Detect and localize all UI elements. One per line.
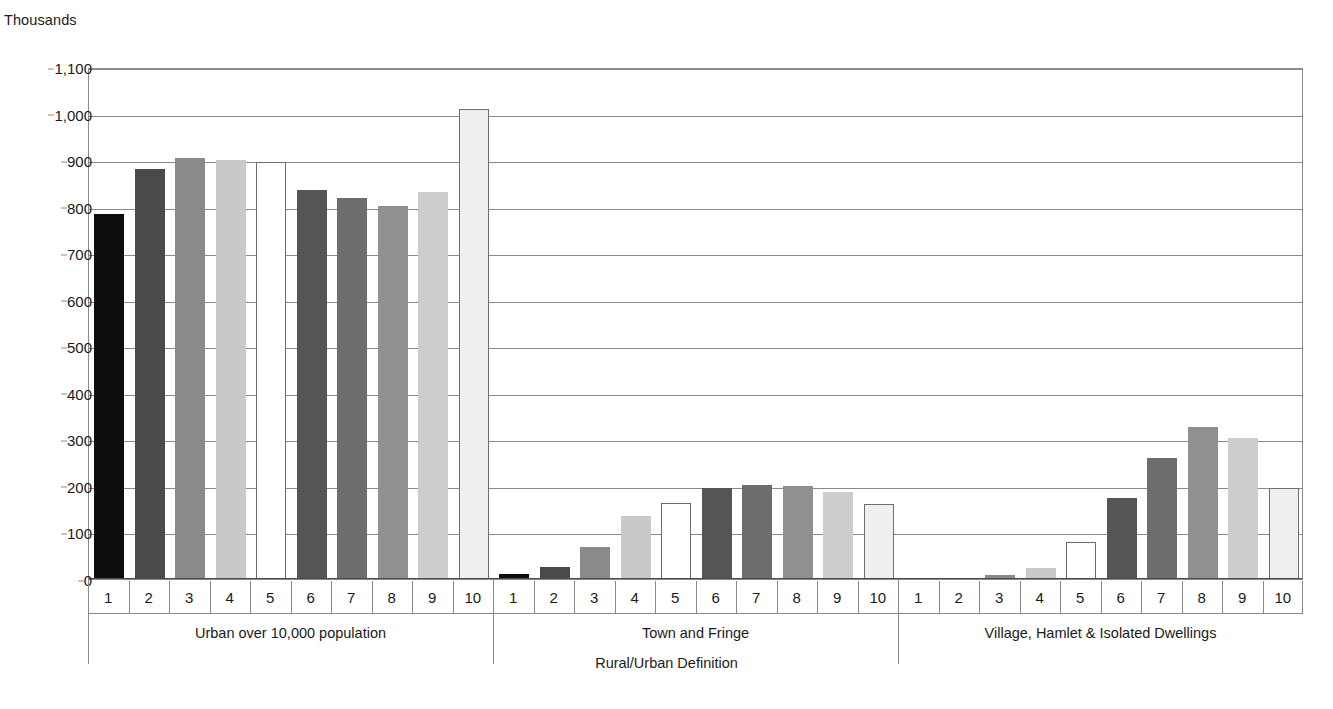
tick-divider	[574, 581, 575, 614]
tick-divider	[250, 581, 251, 614]
x-axis-tick-label: 1	[898, 581, 939, 614]
bar	[135, 169, 165, 579]
x-axis-baseline	[89, 578, 1302, 579]
x-axis-title: Rural/Urban Definition	[0, 655, 1333, 671]
y-axis-tick-mark	[61, 533, 67, 534]
bar	[297, 190, 327, 579]
bar	[1228, 438, 1258, 579]
y-axis-tick-mark	[61, 254, 67, 255]
bar	[418, 192, 448, 579]
group-separator	[88, 580, 89, 664]
bar-cell	[940, 69, 981, 579]
x-axis-tick-label: 10	[453, 581, 494, 614]
x-axis-tick-label: 9	[412, 581, 453, 614]
y-axis-tick-mark	[61, 440, 67, 441]
bar-cell	[737, 69, 778, 579]
tick-divider	[331, 581, 332, 614]
bar-cell	[1183, 69, 1224, 579]
bar-cell	[413, 69, 454, 579]
y-axis-tick-mark	[61, 301, 67, 302]
bar-cell	[616, 69, 657, 579]
y-axis-tick-label: 800	[67, 199, 92, 216]
bar	[459, 109, 489, 579]
x-axis-tick-label: 3	[169, 581, 210, 614]
x-axis-tick-labels: 123456789101234567891012345678910	[88, 581, 1303, 614]
tick-divider	[129, 581, 130, 614]
bar-cell	[859, 69, 900, 579]
bar-cell	[494, 69, 535, 579]
x-axis-tick-label: 3	[979, 581, 1020, 614]
tick-divider	[939, 581, 940, 614]
tick-divider	[1141, 581, 1142, 614]
y-axis-tick-label: 600	[67, 292, 92, 309]
x-axis-tick-label: 6	[696, 581, 737, 614]
y-axis-tick-mark	[78, 580, 84, 581]
tick-divider	[412, 581, 413, 614]
bar	[1066, 542, 1096, 579]
bar-cell	[251, 69, 292, 579]
x-axis-tick-label: 10	[1263, 581, 1304, 614]
x-axis-tick-label: 2	[129, 581, 170, 614]
group-label: Village, Hamlet & Isolated Dwellings	[898, 614, 1303, 652]
bar	[1107, 498, 1137, 579]
y-axis-tick-mark	[48, 115, 54, 116]
y-axis-tick-label: 300	[67, 432, 92, 449]
x-axis-tick-label: 5	[1060, 581, 1101, 614]
tick-divider	[696, 581, 697, 614]
bar	[337, 198, 367, 579]
tick-divider	[372, 581, 373, 614]
bar	[1269, 488, 1299, 579]
y-axis-tick-label: 1,000	[54, 106, 92, 123]
y-axis-tick-mark	[61, 487, 67, 488]
x-axis-tick-label: 2	[534, 581, 575, 614]
bar-cell	[1021, 69, 1062, 579]
x-axis-tick-label: 7	[1141, 581, 1182, 614]
y-axis-tick-mark	[61, 347, 67, 348]
x-axis-tick-label: 1	[493, 581, 534, 614]
bar-cell	[899, 69, 940, 579]
x-axis-tick-label: 9	[1222, 581, 1263, 614]
y-axis-tick-label: 200	[67, 478, 92, 495]
bar-cell	[535, 69, 576, 579]
bar-cell	[818, 69, 859, 579]
bar	[823, 492, 853, 580]
bar	[580, 547, 610, 579]
tick-divider	[169, 581, 170, 614]
x-axis-tick-label: 8	[372, 581, 413, 614]
group-separator	[898, 580, 899, 664]
tick-divider	[777, 581, 778, 614]
x-axis-tick-label: 6	[1101, 581, 1142, 614]
tick-divider	[858, 581, 859, 614]
x-axis-tick-label: 8	[1182, 581, 1223, 614]
y-axis-tick-label: 1,100	[54, 60, 92, 77]
tick-divider	[291, 581, 292, 614]
group-label: Town and Fringe	[493, 614, 898, 652]
bar	[256, 162, 286, 579]
x-axis-tick-label: 4	[210, 581, 251, 614]
tick-divider	[1263, 581, 1264, 614]
x-axis-tick-label: 5	[250, 581, 291, 614]
y-axis-tick-label: 900	[67, 153, 92, 170]
bar	[1147, 458, 1177, 579]
group-separator	[493, 580, 494, 664]
bar	[94, 214, 124, 579]
bar-cell	[454, 69, 495, 579]
x-axis-tick-label: 4	[1020, 581, 1061, 614]
bar-chart: Thousands 01002003004005006007008009001,…	[0, 0, 1333, 709]
tick-divider	[210, 581, 211, 614]
y-axis-unit-label: Thousands	[4, 12, 77, 28]
plot-area	[88, 68, 1303, 580]
x-axis-group-labels: Urban over 10,000 populationTown and Fri…	[88, 614, 1303, 652]
y-axis-tick-label: 100	[67, 525, 92, 542]
bar-cell	[170, 69, 211, 579]
y-axis-tick-mark	[61, 208, 67, 209]
bar	[742, 485, 772, 579]
bar-cell	[1264, 69, 1305, 579]
bar-cell	[980, 69, 1021, 579]
bar	[1188, 427, 1218, 579]
tick-divider	[534, 581, 535, 614]
x-axis-tick-label: 4	[615, 581, 656, 614]
bar-cell	[292, 69, 333, 579]
y-axis-tick-label: 500	[67, 339, 92, 356]
tick-divider	[615, 581, 616, 614]
